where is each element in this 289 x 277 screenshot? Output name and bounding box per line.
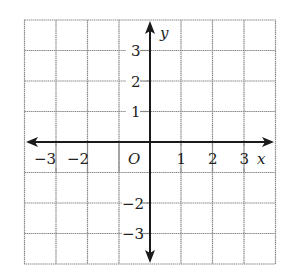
x-tick-3: 3 [240,150,250,168]
x-axis-label: x [257,150,266,168]
axes [34,30,266,254]
coordinate-plane: y x O −3 −2 1 2 3 3 2 1 −2 −3 [0,0,289,277]
origin-label: O [128,150,140,168]
x-tick-neg2: −2 [67,150,89,168]
x-tick-1: 1 [177,150,187,168]
x-tick-2: 2 [208,150,218,168]
y-tick-1: 1 [131,103,141,121]
y-tick-3: 3 [131,42,141,60]
y-axis-label: y [159,24,169,42]
y-tick-2: 2 [131,73,141,91]
y-tick-neg2: −2 [122,195,144,213]
y-tick-neg3: −3 [122,225,144,243]
x-tick-neg3: −3 [34,150,56,168]
